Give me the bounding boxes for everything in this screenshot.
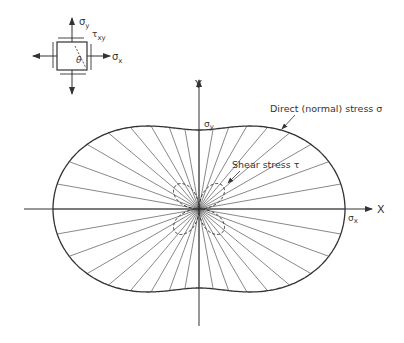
sigma-x-axis-label: σx [348,213,358,225]
stress-element: σy τxy σx θ [33,16,123,94]
tau-xy-label: τxy [92,29,106,42]
element-square [57,42,87,70]
x-axis-label: X [377,203,385,216]
y-axis-label: Y [194,78,202,91]
theta-label: θ [76,55,82,65]
shear-stress-annotation: Shear stress τ [232,159,300,170]
sigma-y-label: σy [79,16,90,30]
sigma-x-label: σx [112,51,123,65]
stress-polar-diagram: σy τxy σx θ Y X σy σx Direct (normal) st… [0,0,404,343]
direct-stress-leader [282,115,295,129]
direct-stress-annotation: Direct (normal) stress σ [270,103,382,114]
